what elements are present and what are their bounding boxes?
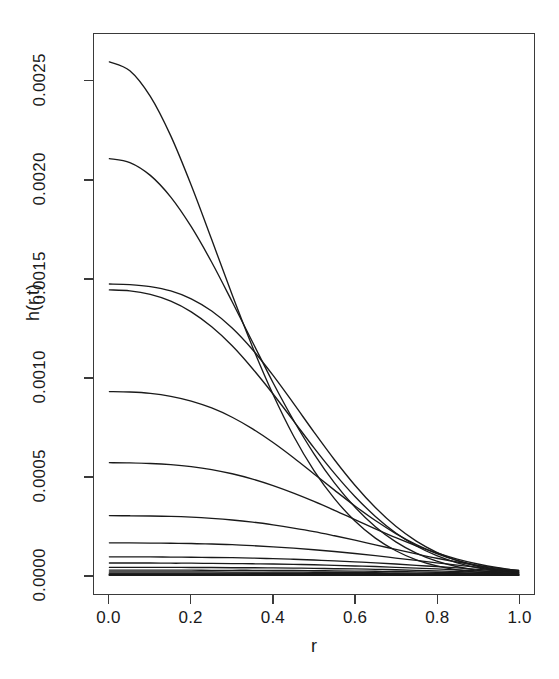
- x-tick-mark: [272, 595, 273, 604]
- x-tick-mark: [108, 595, 109, 604]
- x-tick-label: 0.0: [73, 608, 143, 628]
- y-tick-mark: [84, 377, 93, 378]
- curve-series-group: [94, 34, 534, 594]
- x-tick-label: 0.6: [320, 608, 390, 628]
- y-tick-label: 0.0000: [30, 535, 50, 615]
- y-tick-mark: [84, 575, 93, 576]
- y-tick-label: 0.0010: [30, 337, 50, 417]
- x-axis-title: r: [93, 636, 535, 657]
- x-tick-mark: [437, 595, 438, 604]
- plot-panel: [93, 33, 535, 595]
- y-tick-mark: [84, 278, 93, 279]
- x-tick-label: 0.8: [402, 608, 472, 628]
- y-tick-mark: [84, 80, 93, 81]
- y-tick-label: 0.0005: [30, 436, 50, 516]
- x-tick-mark: [354, 595, 355, 604]
- y-tick-mark: [84, 476, 93, 477]
- x-tick-label: 0.4: [238, 608, 308, 628]
- curve-line: [109, 62, 518, 575]
- curve-line: [109, 392, 518, 572]
- chart-figure: 0.00000.00050.00100.00150.00200.0025 0.0…: [0, 0, 559, 679]
- y-axis-title: h(r,t): [23, 258, 44, 348]
- y-tick-mark: [84, 179, 93, 180]
- x-tick-mark: [519, 595, 520, 604]
- x-tick-label: 1.0: [485, 608, 555, 628]
- y-tick-label: 0.0020: [30, 139, 50, 219]
- curve-line: [109, 284, 518, 572]
- x-tick-mark: [190, 595, 191, 604]
- curve-line: [109, 159, 518, 574]
- x-tick-label: 0.2: [156, 608, 226, 628]
- y-tick-label: 0.0025: [30, 40, 50, 120]
